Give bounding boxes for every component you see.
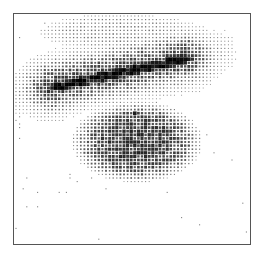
halftone-density-plot	[0, 0, 267, 258]
